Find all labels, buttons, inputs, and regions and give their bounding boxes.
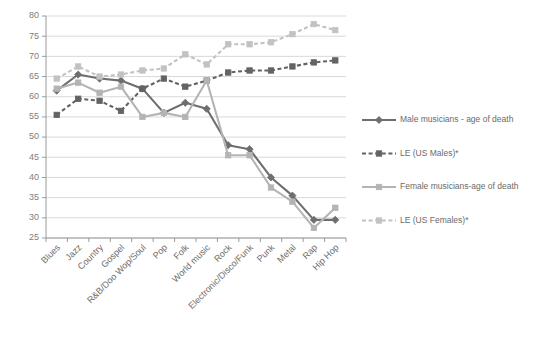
x-tick-label: Blues (39, 242, 62, 265)
y-tick-label: 25 (29, 232, 39, 242)
data-point-marker (268, 40, 273, 45)
data-point-marker (311, 225, 316, 230)
data-point-marker (376, 151, 381, 156)
data-point-marker (75, 80, 80, 85)
data-point-marker (97, 74, 102, 79)
data-point-marker (225, 153, 230, 158)
y-tick-label: 60 (29, 91, 39, 101)
legend-label: Female musicians-age of death (400, 181, 519, 191)
legend-item-2[interactable]: LE (US Males)* (362, 148, 459, 158)
data-point-marker (376, 218, 381, 223)
data-point-marker (54, 112, 59, 117)
y-tick-label: 50 (29, 131, 39, 141)
data-point-marker (97, 90, 102, 95)
data-point-marker (118, 84, 123, 89)
data-point-marker (183, 114, 188, 119)
legend-label: LE (US Males)* (400, 148, 459, 158)
data-point-marker (247, 68, 252, 73)
data-point-marker (118, 72, 123, 77)
y-tick-label: 45 (29, 152, 39, 162)
y-tick-label: 30 (29, 212, 39, 222)
data-point-marker (140, 86, 145, 91)
data-point-marker (290, 64, 295, 69)
data-point-marker (54, 86, 59, 91)
legend-label: Male musicians - age of death (400, 114, 514, 124)
data-point-marker (75, 96, 80, 101)
y-axis-tick-labels: 253035404550556065707580 (29, 10, 39, 242)
data-point-marker (376, 184, 381, 189)
data-point-marker (333, 58, 338, 63)
data-point-marker (97, 98, 102, 103)
data-point-marker (204, 62, 209, 67)
data-point-marker (268, 68, 273, 73)
data-point-marker (311, 21, 316, 26)
x-tick-label: Punk (255, 242, 277, 264)
data-point-marker (333, 27, 338, 32)
data-point-marker (183, 52, 188, 57)
data-point-marker (333, 205, 338, 210)
y-tick-label: 65 (29, 71, 39, 81)
data-point-marker (247, 153, 252, 158)
data-point-marker (225, 70, 230, 75)
data-point-marker (161, 110, 166, 115)
chart-container: 253035404550556065707580 BluesJazzCountr… (0, 0, 554, 345)
data-point-marker (140, 114, 145, 119)
y-tick-label: 35 (29, 192, 39, 202)
line-chart: 253035404550556065707580 BluesJazzCountr… (0, 0, 554, 345)
data-point-marker (183, 84, 188, 89)
legend-label: LE (US Females)* (400, 215, 469, 225)
data-point-marker (375, 116, 382, 123)
y-tick-label: 55 (29, 111, 39, 121)
y-tick-label: 70 (29, 51, 39, 61)
data-point-marker (140, 68, 145, 73)
data-point-marker (290, 31, 295, 36)
data-point-marker (161, 76, 166, 81)
data-point-marker (118, 108, 123, 113)
y-tick-label: 75 (29, 31, 39, 41)
data-point-marker (268, 185, 273, 190)
data-point-marker (54, 76, 59, 81)
y-tick-label: 80 (29, 10, 39, 20)
data-point-marker (161, 66, 166, 71)
x-tick-label: Pop (151, 242, 169, 260)
data-point-marker (290, 199, 295, 204)
data-point-marker (311, 60, 316, 65)
chart-legend: Male musicians - age of deathLE (US Male… (362, 114, 519, 225)
legend-item-1[interactable]: Male musicians - age of death (362, 114, 514, 124)
x-tick-label: Metal (275, 242, 298, 265)
x-axis-tick-labels: BluesJazzCountryGospelR&B/Doo Wop/SoulPo… (39, 242, 341, 311)
legend-item-3[interactable]: Female musicians-age of death (362, 181, 519, 191)
data-point-marker (75, 64, 80, 69)
y-tick-label: 40 (29, 172, 39, 182)
data-point-marker (225, 42, 230, 47)
legend-item-4[interactable]: LE (US Females)* (362, 215, 469, 225)
data-point-marker (247, 42, 252, 47)
data-point-marker (204, 78, 209, 83)
